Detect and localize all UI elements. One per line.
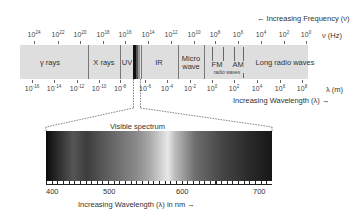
visible-axis-title: Increasing Wavelength (λ) in nm → xyxy=(78,200,195,209)
visible-tick-500: 500 xyxy=(103,187,116,196)
visible-spectrum-title: Visible spectrum xyxy=(110,122,165,131)
visible-tick-600: 600 xyxy=(176,187,189,196)
visible-tick-400: 400 xyxy=(46,187,59,196)
visible-tick-700: 700 xyxy=(253,187,266,196)
visible-spectrum-ruler xyxy=(46,181,272,185)
zoom-connector-lines xyxy=(0,0,360,218)
visible-spectrum-gradient xyxy=(46,131,272,181)
